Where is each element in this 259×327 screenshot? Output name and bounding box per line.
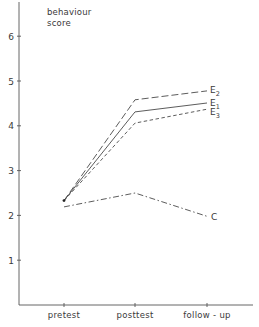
- y-axis-title-line-1: behaviour: [47, 7, 92, 17]
- y-tick-label: 1: [8, 256, 14, 266]
- y-tick-label: 3: [8, 166, 14, 176]
- series-label-e2: E2: [210, 85, 220, 98]
- x-tick-label: posttest: [116, 310, 153, 320]
- series-line-e3: [64, 109, 207, 200]
- pretest-convergence-point: [63, 199, 66, 202]
- x-tick-label: pretest: [48, 310, 81, 320]
- series-line-e1: [64, 103, 207, 201]
- series-lines: E2E1E3C: [63, 85, 220, 222]
- y-tick-label: 4: [8, 121, 14, 131]
- y-tick-label: 2: [8, 211, 14, 221]
- y-tick-label: 5: [8, 77, 14, 87]
- x-tick-label: follow - up: [183, 310, 231, 320]
- x-axis: pretestposttestfollow - up: [19, 303, 253, 320]
- series-label-c: C: [211, 212, 217, 222]
- y-axis-title-line-2: score: [47, 18, 71, 28]
- series-line-c: [64, 193, 207, 216]
- series-line-e2: [64, 91, 207, 201]
- line-chart: 123456 pretestposttestfollow - up behavi…: [0, 0, 259, 327]
- y-axis: 123456: [8, 2, 21, 305]
- x-ticks: pretestposttestfollow - up: [48, 303, 231, 320]
- y-tick-label: 6: [8, 32, 14, 42]
